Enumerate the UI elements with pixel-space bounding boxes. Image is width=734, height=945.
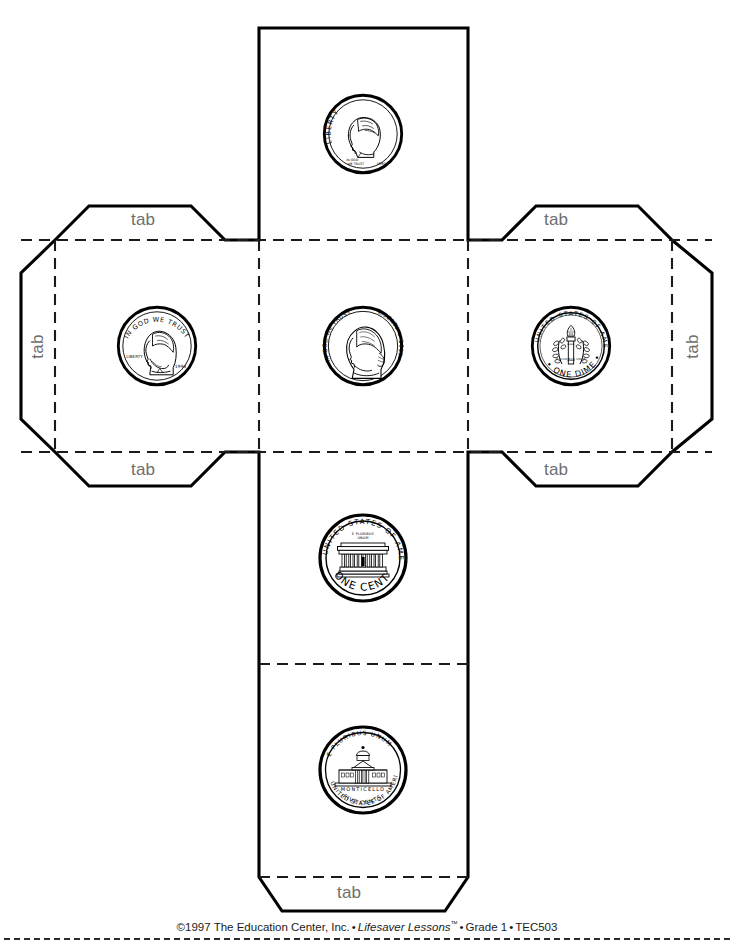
tab-label-right-top: tab — [544, 211, 568, 228]
tab-label-left-top: tab — [131, 211, 155, 228]
footer-sep-3: • — [507, 921, 515, 933]
tab-label-left-bottom: tab — [131, 461, 155, 478]
footer-credit-line: ©1997 The Education Center, Inc.•Lifesav… — [0, 920, 734, 933]
coin-nickel-obverse — [322, 307, 404, 384]
footer-copyright: ©1997 The Education Center, Inc. — [177, 921, 350, 933]
tab-label-right-right: tab — [684, 320, 701, 374]
worksheet-page: LIBERTY IN GOD WE TRUST 1990 — [0, 0, 734, 945]
footer-series-name: Lifesaver Lessons — [358, 921, 451, 933]
footer-product-code: TEC503 — [515, 921, 557, 933]
coin-dime-obverse — [324, 95, 401, 172]
cube-net-diagram: LIBERTY IN GOD WE TRUST 1990 — [0, 0, 734, 945]
footer-sep-2: • — [458, 921, 466, 933]
tab-label-left-left: tab — [29, 320, 46, 374]
tab-label-bottom: tab — [337, 884, 361, 901]
coin-penny-obverse — [118, 307, 195, 384]
footer-grade: Grade 1 — [466, 921, 508, 933]
footer-trademark: ™ — [451, 920, 458, 927]
page-cut-guide-line — [4, 938, 730, 940]
tab-label-right-bottom: tab — [544, 461, 568, 478]
footer-sep-1: • — [350, 921, 358, 933]
